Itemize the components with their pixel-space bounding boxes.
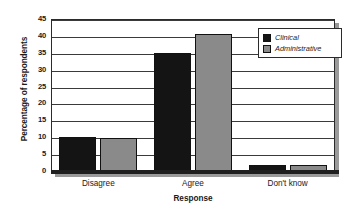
x-axis-title: Response <box>51 195 335 203</box>
bar-administrative-agree <box>195 34 232 171</box>
y-axis-tick-label: 15 <box>24 117 46 125</box>
x-axis-category-label: Disagree <box>82 180 115 188</box>
x-axis-category-label: Agree <box>182 180 204 188</box>
bar-administrative-disagree <box>100 138 137 171</box>
y-axis-tick-label: 20 <box>24 100 46 108</box>
y-axis-tick-label: 30 <box>24 66 46 74</box>
y-axis-tick-label: 0 <box>24 167 46 175</box>
x-axis-baseline-shadow <box>55 174 339 177</box>
legend-item-administrative: Administrative <box>263 43 337 54</box>
bar-clinical-agree <box>154 53 191 171</box>
x-axis-category-label: Don't know <box>268 180 308 188</box>
y-axis-tick-label: 5 <box>24 150 46 158</box>
legend-label-clinical: Clinical <box>275 34 299 41</box>
y-axis-tick-label: 10 <box>24 133 46 141</box>
y-axis-tick-label: 40 <box>24 32 46 40</box>
bar-clinical-disagree <box>59 137 96 171</box>
legend-swatch-administrative <box>263 45 271 53</box>
legend-label-administrative: Administrative <box>275 45 321 52</box>
bar-chart: Percentage of respondents 05101520253035… <box>0 0 355 214</box>
y-axis-tick-labels: 051015202530354045 <box>24 19 46 171</box>
y-axis-tick-label: 45 <box>24 15 46 23</box>
y-axis-tick-label: 35 <box>24 49 46 57</box>
legend: Clinical Administrative <box>258 28 342 58</box>
y-axis-tick-label: 25 <box>24 83 46 91</box>
x-axis-category-labels: DisagreeAgreeDon't know <box>51 180 335 194</box>
legend-swatch-clinical <box>263 34 271 42</box>
legend-item-clinical: Clinical <box>263 32 337 43</box>
